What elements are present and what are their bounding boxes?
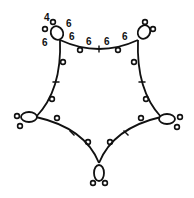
picot-icon — [103, 181, 108, 186]
ring-icon — [94, 165, 104, 181]
ring-icon — [48, 24, 65, 42]
chain-left-lower — [36, 116, 99, 163]
chain-left-upper — [36, 40, 65, 117]
ring-icon — [135, 23, 152, 41]
chain-line — [36, 40, 60, 117]
stitch-count-label: 6 — [104, 36, 110, 47]
picot-icon — [86, 140, 91, 145]
stitch-count-label: 6 — [66, 18, 72, 29]
picot-icon — [43, 27, 48, 32]
ring-bottom — [91, 165, 108, 185]
stitch-count-label: 6 — [86, 36, 92, 47]
stitch-count-label: 6 — [69, 31, 75, 42]
ring-icon — [159, 114, 175, 124]
picot-icon — [178, 115, 183, 120]
chain-right-upper — [132, 40, 161, 117]
picot-icon — [61, 60, 66, 65]
picot-icon — [51, 20, 56, 25]
picot-icon — [108, 140, 113, 145]
picot-icon — [78, 48, 83, 53]
stitch-count-label: 4 — [44, 12, 50, 23]
picot-icon — [18, 124, 23, 129]
stitch-count-label: 6 — [122, 31, 128, 42]
picot-icon — [139, 116, 144, 121]
picot-icon — [116, 48, 121, 53]
chain-right-lower — [99, 116, 161, 163]
tatting-diagram: 4666666 — [0, 0, 194, 198]
picot-icon — [132, 60, 137, 65]
ring-icon — [21, 112, 37, 122]
picot-icon — [91, 181, 96, 186]
picot-icon — [175, 125, 180, 130]
picot-icon — [15, 114, 20, 119]
ring-left — [15, 112, 37, 128]
stitch-count-label: 6 — [42, 37, 48, 48]
ring-top-right — [135, 20, 155, 41]
picot-icon — [151, 27, 156, 32]
ring-right — [159, 114, 182, 129]
picot-icon — [144, 97, 149, 102]
chain-line — [138, 40, 161, 117]
picot-icon — [50, 97, 55, 102]
picot-icon — [143, 20, 148, 25]
picot-icon — [55, 116, 60, 121]
chains — [36, 40, 161, 163]
